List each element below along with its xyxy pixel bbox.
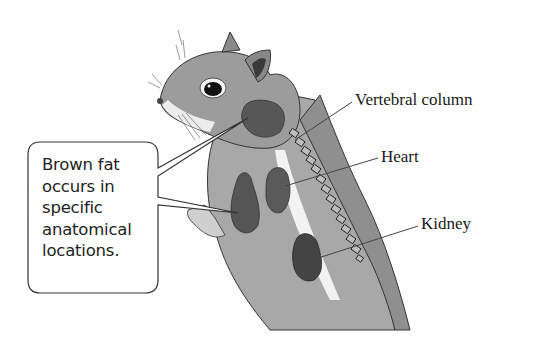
callout-text: Brown fat occurs in specific anatomical … [42,154,152,262]
callout-line: occurs in [42,176,152,198]
heart [266,168,290,213]
callout-line: Brown fat [42,154,152,176]
squirrel-head [160,52,300,149]
callout-line: specific [42,197,152,219]
label-kidney: Kidney [421,214,471,234]
callout-line: anatomical [42,219,152,241]
label-heart: Heart [381,147,419,167]
callout-line: locations. [42,240,152,262]
diagram-canvas: Brown fat occurs in specific anatomical … [0,0,549,348]
label-vertebral-column: Vertebral column [355,90,473,110]
ear-back [222,32,240,52]
